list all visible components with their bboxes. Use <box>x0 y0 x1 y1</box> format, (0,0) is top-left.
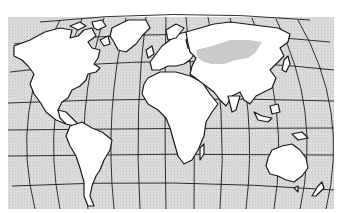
borneo <box>270 104 280 114</box>
map-svg <box>0 0 345 213</box>
world-map <box>0 0 345 213</box>
